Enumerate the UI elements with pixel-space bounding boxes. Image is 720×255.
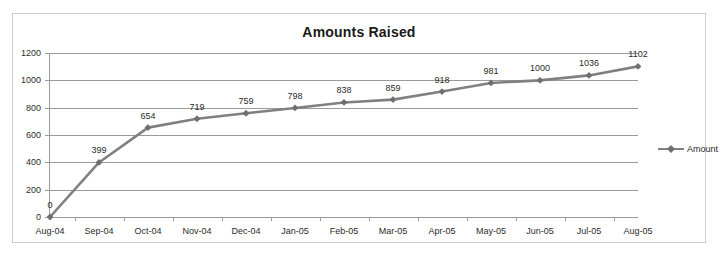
data-point-label: 798 xyxy=(287,91,302,101)
data-point-label: 918 xyxy=(434,75,449,85)
x-tick-mark xyxy=(75,217,76,221)
x-tick-label: Mar-05 xyxy=(379,226,408,236)
x-tick-mark xyxy=(320,217,321,221)
data-point-label: 399 xyxy=(91,145,106,155)
data-point-label: 1102 xyxy=(628,49,647,59)
x-tick-label: Jan-05 xyxy=(281,226,309,236)
x-tick-mark xyxy=(418,217,419,221)
x-tick-mark xyxy=(467,217,468,221)
y-tick-label: 0 xyxy=(36,212,41,222)
x-tick-mark xyxy=(173,217,174,221)
x-tick-mark xyxy=(614,217,615,221)
data-point-label: 759 xyxy=(238,96,253,106)
x-tick-label: Nov-04 xyxy=(182,226,211,236)
gridline xyxy=(50,217,638,218)
y-tick-label: 1200 xyxy=(21,48,41,58)
y-tick-label: 800 xyxy=(26,103,41,113)
x-tick-label: Apr-05 xyxy=(428,226,455,236)
data-point-label: 719 xyxy=(189,102,204,112)
legend-item-label: Amount xyxy=(687,144,718,154)
x-tick-label: Jun-05 xyxy=(526,226,554,236)
diamond-marker-icon xyxy=(658,144,684,154)
x-tick-mark xyxy=(516,217,517,221)
x-tick-label: Dec-04 xyxy=(231,226,260,236)
data-point-label: 654 xyxy=(140,111,155,121)
data-point-label: 1000 xyxy=(530,63,550,73)
x-tick-label: Feb-05 xyxy=(330,226,359,236)
chart-container: Amounts Raised 020040060080010001200 Aug… xyxy=(12,13,706,243)
data-point-label: 0 xyxy=(47,200,52,210)
y-tick-label: 600 xyxy=(26,130,41,140)
x-tick-label: Sep-04 xyxy=(84,226,113,236)
x-tick-label: May-05 xyxy=(476,226,506,236)
chart-legend: Amount xyxy=(658,144,718,154)
plot-area: 020040060080010001200 Aug-04Sep-04Oct-04… xyxy=(50,53,638,217)
y-tick-label: 400 xyxy=(26,157,41,167)
data-point-label: 1036 xyxy=(579,58,599,68)
data-point-label: 838 xyxy=(336,85,351,95)
x-tick-mark xyxy=(369,217,370,221)
y-tick-label: 200 xyxy=(26,185,41,195)
x-tick-label: Oct-04 xyxy=(134,226,161,236)
x-tick-mark xyxy=(222,217,223,221)
y-tick-label: 1000 xyxy=(21,75,41,85)
x-tick-mark xyxy=(565,217,566,221)
x-tick-label: Aug-04 xyxy=(35,226,64,236)
x-tick-label: Jul-05 xyxy=(577,226,602,236)
x-tick-mark xyxy=(124,217,125,221)
chart-title: Amounts Raised xyxy=(13,24,705,40)
data-point-label: 981 xyxy=(483,66,498,76)
x-tick-label: Aug-05 xyxy=(623,226,652,236)
data-point-label: 859 xyxy=(385,83,400,93)
series-amount-line xyxy=(50,53,638,217)
x-tick-mark xyxy=(271,217,272,221)
